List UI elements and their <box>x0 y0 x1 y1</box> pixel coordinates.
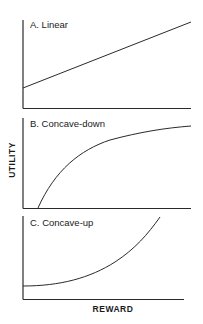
utility-curves-figure: A. Linear B. Concave-down C. Concave-up … <box>0 0 203 324</box>
panel-c-concave-up: C. Concave-up <box>23 216 184 300</box>
panel-a-linear: A. Linear <box>23 19 191 109</box>
panel-c-title: C. Concave-up <box>30 217 93 228</box>
x-axis-label: REWARD <box>93 304 134 314</box>
panel-b-title: B. Concave-down <box>30 118 105 129</box>
panel-a-linear-curve <box>23 22 191 88</box>
panel-a-title: A. Linear <box>30 19 68 30</box>
y-axis-label: UTILITY <box>7 142 17 178</box>
panel-b-concave-down-curve <box>38 126 191 208</box>
panel-b-concave-down: B. Concave-down <box>23 118 191 209</box>
